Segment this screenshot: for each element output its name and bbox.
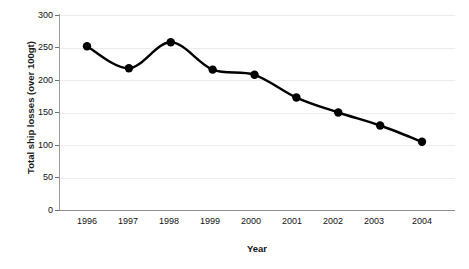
data-point-2000 <box>250 71 258 79</box>
data-point-2002 <box>334 108 342 116</box>
data-point-2001 <box>292 93 300 101</box>
data-point-2003 <box>376 121 384 129</box>
data-series-layer <box>0 0 469 269</box>
data-point-2004 <box>418 138 426 146</box>
data-point-1996 <box>83 42 91 50</box>
data-point-1997 <box>125 64 133 72</box>
data-point-1999 <box>208 65 216 73</box>
data-point-1998 <box>167 38 175 46</box>
series-line <box>87 42 422 141</box>
line-chart: Total ship losses (over 100gt) 300 250 2… <box>0 0 469 269</box>
series-markers <box>83 38 426 146</box>
